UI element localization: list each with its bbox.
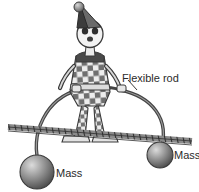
right-eye-icon: [92, 27, 98, 34]
left-hand: [72, 85, 81, 92]
hat-pompom: [74, 2, 84, 12]
mass-label-left: Mass: [56, 167, 83, 179]
flexible-rod-callout: Flexible rod: [122, 72, 179, 90]
clown-figure: [60, 2, 126, 142]
flexible-rod-label: Flexible rod: [122, 72, 179, 84]
illustration-canvas: Flexible rod Mass Mass: [0, 0, 199, 192]
clown-hat: [74, 2, 101, 28]
right-hand: [117, 85, 126, 92]
clown-torso: [70, 52, 110, 107]
right-mass-sphere: [147, 142, 173, 168]
left-mass-sphere: [20, 155, 54, 189]
physics-illustration: Flexible rod Mass Mass: [0, 0, 199, 192]
nose-icon: [87, 36, 93, 41]
mass-label-right: Mass: [174, 149, 199, 161]
